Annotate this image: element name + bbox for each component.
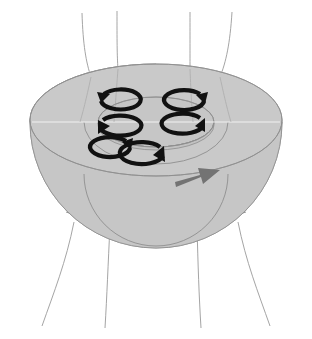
- figure-root: Rotating stellar interior with convectiv…: [0, 0, 312, 339]
- field-line-lower-1: [42, 222, 74, 326]
- field-line-upper-1: [82, 13, 91, 77]
- field-line-lower-4: [238, 222, 270, 326]
- diagram-svg: [0, 0, 312, 339]
- field-line-lower-2: [105, 226, 110, 328]
- field-line-upper-2: [117, 11, 118, 69]
- field-line-upper-4: [220, 12, 232, 77]
